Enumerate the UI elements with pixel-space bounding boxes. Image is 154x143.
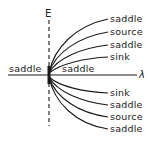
- lower-branch-label: source: [110, 112, 143, 122]
- branch-curve: [49, 77, 108, 93]
- lower-branch-label: saddle: [110, 124, 143, 134]
- bifurcation-diagram: E λ saddle saddle saddle source saddle s…: [0, 0, 154, 143]
- upper-branch-label: saddle: [110, 14, 143, 24]
- upper-branch-label: source: [110, 27, 143, 37]
- energy-axis-label: E: [45, 9, 51, 19]
- origin-point: [48, 66, 51, 84]
- lower-branch-label: saddle: [110, 100, 143, 110]
- branch-curve: [49, 77, 108, 129]
- lambda-axis-label: λ: [139, 70, 145, 80]
- upper-branch-label: saddle: [110, 40, 143, 50]
- lower-branch-label: sink: [110, 88, 130, 98]
- upper-branch-label: sink: [110, 52, 130, 62]
- left-region-label: saddle: [9, 64, 42, 74]
- right-region-label: saddle: [62, 64, 95, 74]
- branch-curve: [49, 77, 108, 105]
- lower-branch-curves: [49, 77, 108, 129]
